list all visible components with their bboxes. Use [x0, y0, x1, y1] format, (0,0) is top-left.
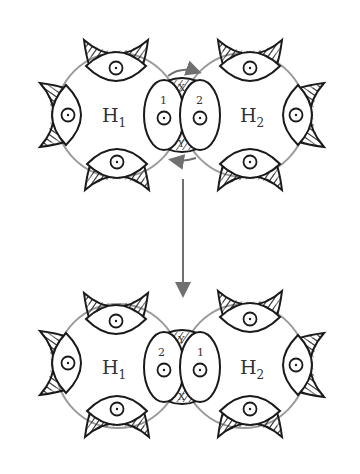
unit-h2-top	[218, 40, 282, 81]
rotation-arrow-top-icon	[168, 70, 198, 76]
label-h2: H2	[240, 104, 264, 130]
bottom-panel: 2 1 Y X H1 H2	[40, 291, 324, 437]
unit-h1-left	[40, 83, 81, 147]
unit-h2-top-b	[218, 291, 282, 332]
unit-h1-bottom	[85, 149, 149, 190]
top-panel: 1 2 X Y H1 H2	[40, 40, 324, 190]
junction-letter-upper: X	[178, 82, 186, 93]
unit-h1-top-b	[84, 293, 148, 334]
unit-h2-bottom	[218, 149, 282, 190]
junction-letter-lower: Y	[177, 138, 185, 149]
rotation-arrow-bottom-icon	[172, 158, 196, 161]
unit-h1-top	[84, 40, 148, 81]
unit-h1-bottom-b	[85, 396, 149, 437]
label-h1-b: H1	[102, 356, 126, 382]
junction-number-right-b: 1	[197, 346, 204, 359]
junction-number-right: 2	[196, 94, 203, 107]
junction-number-left-b: 2	[158, 346, 165, 359]
junction-letter-upper-b: Y	[177, 334, 185, 345]
junction-top: 1 2 X Y	[144, 78, 220, 152]
label-h1: H1	[102, 104, 126, 130]
unit-h2-bottom-b	[218, 396, 282, 437]
diagram-canvas: 1 2 X Y H1 H2	[0, 0, 360, 474]
junction-letter-lower-b: X	[178, 391, 186, 402]
label-h2-b: H2	[240, 356, 264, 382]
junction-number-left: 1	[160, 94, 167, 107]
unit-h1-left-b	[40, 331, 81, 395]
unit-h2-right-b	[283, 333, 324, 397]
unit-h2-right	[283, 83, 324, 147]
junction-bottom: 2 1 Y X	[144, 330, 220, 404]
